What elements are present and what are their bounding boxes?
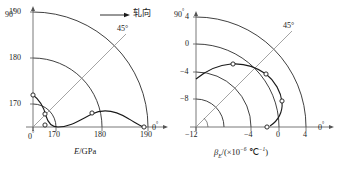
- data-point-marker: [231, 62, 235, 66]
- y-axis-arrowhead: [31, 6, 35, 11]
- y-axis-arrowhead: [194, 11, 198, 16]
- x-tick-label-170: 170: [48, 131, 60, 139]
- x-tick-label-180: 180: [94, 131, 106, 139]
- y-tick-label-4: 4: [185, 13, 189, 21]
- x-tick-label-4: 4: [303, 131, 307, 139]
- x-axis-arrowhead: [163, 125, 168, 129]
- right-arrow-icon: [124, 13, 130, 18]
- angle-label-90-right: 90°: [174, 9, 184, 19]
- y-tick-label-minus4: −4: [180, 68, 189, 76]
- x-tick-label-0-right: 0: [276, 131, 280, 139]
- polar-figure-pair: 90° 0° 190 180 170 0° 170 180 190 45° E/…: [0, 0, 349, 181]
- rolling-direction-label: 轧向: [133, 9, 151, 18]
- diagonal-label-45-right: 45°: [283, 22, 294, 30]
- y-tick-label-0: 0: [185, 40, 189, 48]
- angle-label-0-left: 0°: [152, 122, 158, 132]
- x-axis-arrowhead: [329, 125, 334, 129]
- panel-thermal-coefficient: 90° 0° 4 0 −4 −8 −12 −4 0 4 45° βE/(×10−…: [174, 0, 349, 181]
- angle-label-0-right: 0°: [318, 122, 324, 132]
- x-tick-label-190: 190: [140, 131, 152, 139]
- data-point-marker: [265, 125, 269, 129]
- data-point-marker: [90, 111, 94, 115]
- data-point-marker: [43, 123, 47, 127]
- data-point-marker: [43, 112, 47, 116]
- diagonal-label-45-left: 45°: [117, 25, 128, 33]
- panel-modulus: 90° 0° 190 180 170 0° 170 180 190 45° E/…: [0, 0, 174, 181]
- x-tick-label-minus4: −4: [244, 131, 253, 139]
- x-axis-title-left: E/GPa: [74, 147, 96, 156]
- x-axis-title-right: βE/(×10−6 ℃−1): [214, 147, 268, 159]
- origin-angle-arc: [204, 118, 208, 127]
- x-tick-label-minus12: −12: [185, 131, 198, 139]
- data-point-marker: [142, 125, 146, 129]
- y-tick-label-190: 190: [9, 8, 21, 16]
- data-point-marker: [264, 72, 268, 76]
- x-tick-label-0: 0°: [28, 131, 34, 141]
- y-tick-label-minus8: −8: [180, 95, 189, 103]
- y-tick-label-180: 180: [9, 54, 21, 62]
- data-point-marker: [31, 93, 35, 97]
- data-point-marker: [280, 99, 284, 103]
- y-tick-label-170: 170: [9, 100, 21, 108]
